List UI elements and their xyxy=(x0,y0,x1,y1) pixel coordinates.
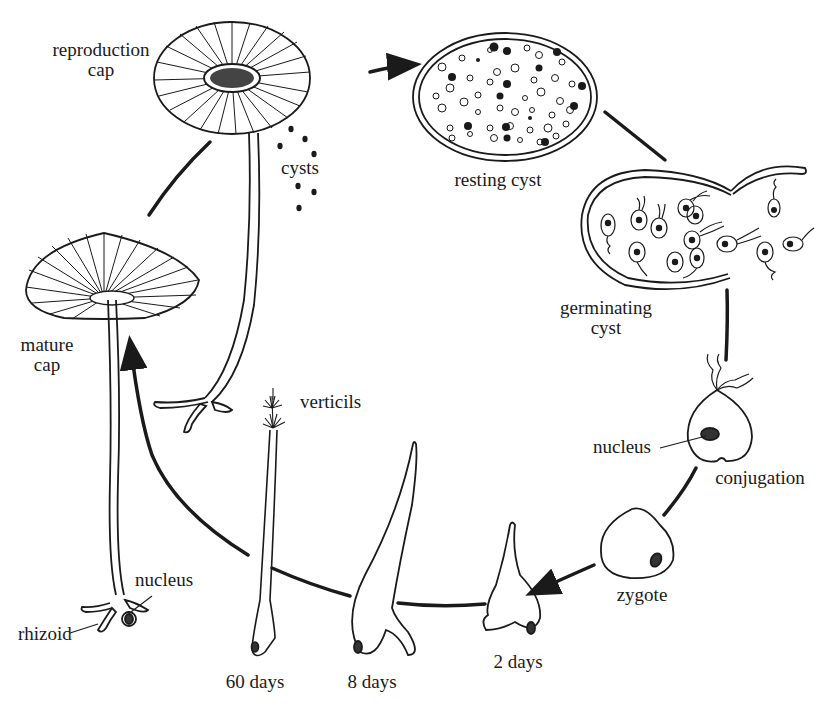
label-mature-cap-line2: cap xyxy=(12,355,82,375)
two-days-drawing xyxy=(483,523,540,635)
zygote-drawing xyxy=(601,508,674,578)
label-2-days: 2 days xyxy=(480,652,556,672)
label-germinating-cyst-line2: cyst xyxy=(548,318,664,338)
label-conjugation-nucleus: nucleus xyxy=(582,437,662,457)
label-germinating-cyst: germinating cyst xyxy=(548,298,664,338)
line-germinating-to-conjugation xyxy=(726,290,727,360)
label-conjugation: conjugation xyxy=(700,468,820,488)
label-germinating-cyst-line1: germinating xyxy=(548,298,664,318)
eight-days-drawing xyxy=(352,442,416,655)
label-reproduction-cap: reproduction cap xyxy=(46,40,156,80)
reproduction-cap-drawing xyxy=(154,22,310,432)
life-cycle-artwork xyxy=(0,0,833,709)
line-8days-to-60days xyxy=(272,568,350,596)
label-8-days: 8 days xyxy=(334,672,410,692)
line-mature-to-reproduction xyxy=(149,142,210,215)
label-mature-nucleus: nucleus xyxy=(135,570,193,590)
label-zygote: zygote xyxy=(604,585,680,605)
arrow-zygote-to-2days xyxy=(538,565,594,590)
line-resting-to-germinating xyxy=(605,112,665,160)
germinating-cyst-drawing xyxy=(581,166,814,289)
line-2days-to-8days xyxy=(398,603,485,606)
resting-cyst-drawing xyxy=(413,33,597,161)
label-reproduction-cap-line1: reproduction xyxy=(46,40,156,60)
label-mature-cap: mature cap xyxy=(12,335,82,375)
arrow-cap-to-resting-cyst xyxy=(370,65,408,72)
label-resting-cyst: resting cyst xyxy=(438,170,558,190)
label-60-days: 60 days xyxy=(210,672,300,692)
sixty-days-drawing xyxy=(252,388,286,656)
label-reproduction-cap-line2: cap xyxy=(46,60,156,80)
label-rhizoid: rhizoid xyxy=(18,624,72,644)
conjugation-drawing xyxy=(660,354,753,462)
label-verticils: verticils xyxy=(300,392,361,412)
label-cysts: cysts xyxy=(270,158,330,178)
label-mature-cap-line1: mature xyxy=(12,335,82,355)
line-conjugation-to-zygote xyxy=(664,468,696,515)
